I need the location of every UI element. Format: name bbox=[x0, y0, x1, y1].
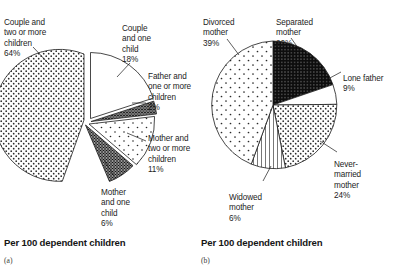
label-father-one-plus: Father and one or more children 2% bbox=[148, 62, 198, 123]
label-never-married-mother: Never- married mother 24% bbox=[334, 150, 384, 211]
label-couple-two-plus-pct: 64% bbox=[4, 49, 66, 59]
label-mother-two-plus: Mother and two or more children 11% bbox=[148, 124, 198, 185]
label-never-married-mother-pct: 24% bbox=[334, 191, 384, 201]
label-father-one-plus-text: Father and one or more children bbox=[148, 72, 191, 101]
label-mother-one: Mother and one child 6% bbox=[101, 178, 149, 239]
label-couple-one-text: Couple and one child bbox=[122, 24, 151, 53]
label-mother-one-text: Mother and one child bbox=[101, 188, 130, 217]
subcaption-panel-a: (a) bbox=[4, 256, 12, 265]
label-lone-father: Lone father 9% bbox=[343, 64, 393, 105]
label-mother-two-plus-pct: 11% bbox=[148, 165, 198, 175]
label-separated-mother-pct: 22% bbox=[276, 39, 332, 49]
panel-b: Divorced mother 39% Separated mother 22%… bbox=[197, 0, 394, 274]
label-lone-father-text: Lone father bbox=[343, 74, 383, 83]
caption-panel-a: Per 100 dependent children bbox=[4, 237, 125, 249]
label-lone-father-pct: 9% bbox=[343, 84, 393, 94]
label-separated-mother: Separated mother 22% bbox=[276, 8, 332, 59]
caption-panel-b: Per 100 dependent children bbox=[201, 237, 322, 249]
label-widowed-mother-pct: 6% bbox=[229, 214, 281, 224]
label-couple-two-plus: Couple and two or more children 64% bbox=[4, 8, 66, 69]
label-mother-two-plus-text: Mother and two or more children bbox=[148, 134, 190, 163]
label-divorced-mother: Divorced mother 39% bbox=[203, 8, 255, 59]
label-never-married-mother-text: Never- married mother bbox=[334, 160, 361, 189]
label-divorced-mother-text: Divorced mother bbox=[203, 18, 235, 37]
label-couple-two-plus-text: Couple and two or more children bbox=[4, 18, 46, 47]
subcaption-panel-b: (b) bbox=[201, 256, 210, 265]
leader-line-lone-father bbox=[328, 72, 341, 79]
panel-a: Couple and two or more children 64% Coup… bbox=[0, 0, 197, 274]
label-separated-mother-text: Separated mother bbox=[276, 18, 313, 37]
label-mother-one-pct: 6% bbox=[101, 219, 149, 229]
label-widowed-mother-text: Widowed mother bbox=[229, 193, 262, 212]
figure-two-pie-charts: Couple and two or more children 64% Coup… bbox=[0, 0, 394, 274]
label-divorced-mother-pct: 39% bbox=[203, 39, 255, 49]
label-father-one-plus-pct: 2% bbox=[148, 103, 198, 113]
label-widowed-mother: Widowed mother 6% bbox=[229, 183, 281, 234]
